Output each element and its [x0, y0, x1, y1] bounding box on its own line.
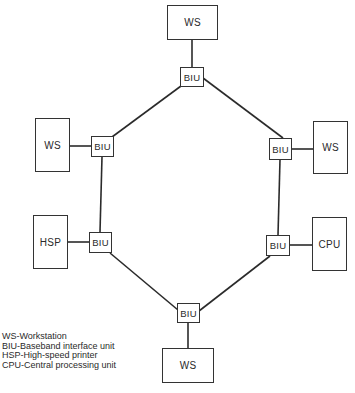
- hsp-node: HSP: [33, 215, 68, 269]
- legend: WS-Workstation BIU-Baseband interface un…: [2, 332, 116, 370]
- node-label: WS: [180, 360, 197, 371]
- node-label: CPU: [318, 239, 340, 250]
- node-label: HSP: [40, 237, 61, 248]
- node-label: WS: [44, 140, 61, 151]
- ring-top-right: [203, 78, 283, 138]
- ws-right-node: WS: [313, 121, 348, 174]
- node-label: BIU: [94, 141, 111, 152]
- biu-right-lower-node: BIU: [266, 235, 290, 256]
- biu-right-upper-node: BIU: [269, 138, 292, 160]
- ws-left-node: WS: [35, 118, 70, 172]
- biu-bottom-node: BIU: [177, 303, 200, 323]
- ring-bottom-right: [199, 256, 270, 311]
- ws-bottom-node: WS: [162, 348, 214, 383]
- node-label: BIU: [272, 144, 289, 155]
- node-label: BIU: [270, 240, 287, 251]
- ring-top-left: [112, 86, 181, 137]
- biu-left-lower-node: BIU: [89, 232, 112, 253]
- cpu-node: CPU: [312, 217, 347, 271]
- ring-right: [278, 160, 280, 235]
- node-label: BIU: [92, 237, 109, 248]
- ws-top-node: WS: [167, 5, 218, 40]
- node-label: WS: [322, 142, 339, 153]
- node-label: WS: [184, 17, 201, 28]
- biu-top-node: BIU: [180, 67, 204, 87]
- ring-bottom-left: [110, 253, 178, 310]
- node-label: BIU: [180, 308, 197, 319]
- legend-item-cpu: CPU-Central processing unit: [2, 361, 116, 371]
- node-label: BIU: [184, 72, 201, 83]
- ring-left: [100, 157, 102, 232]
- biu-left-upper-node: BIU: [91, 136, 114, 157]
